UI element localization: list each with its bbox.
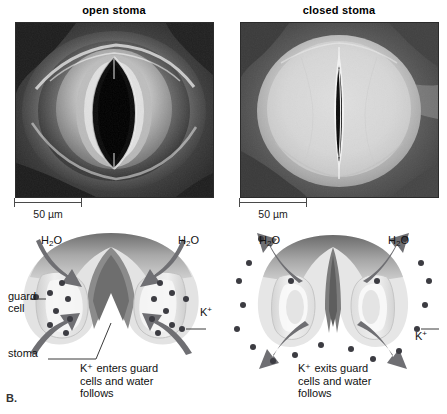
panel-title-closed-stoma: closed stoma <box>240 4 438 16</box>
label-potassium-closed: K+ <box>415 330 427 345</box>
label-guard-cell: guard cell <box>8 290 36 314</box>
scale-bar-open: 50 µm <box>14 198 82 220</box>
label-guard-cell-line1: guard <box>8 290 36 302</box>
scale-bar-closed: 50 µm <box>239 198 307 220</box>
scale-bar-tick-right <box>306 198 307 207</box>
panel-title-open-stoma: open stoma <box>15 4 213 16</box>
panel-letter-b: B. <box>6 392 17 404</box>
figure-stomata: open stoma closed stoma <box>0 0 447 414</box>
label-h2o-closed-left: H2O <box>259 234 280 249</box>
caption-closed-stoma: K⁺ exits guard cells and water follows <box>298 362 423 400</box>
scale-bar-label-open: 50 µm <box>14 208 82 220</box>
scale-bar-rule <box>14 202 82 203</box>
superscript-plus: + <box>422 329 427 338</box>
subscript-2: 2 <box>49 239 53 248</box>
scale-bar-tick-right <box>81 198 82 207</box>
label-guard-cell-line2: cell <box>8 302 25 314</box>
scale-bar-line-open <box>14 198 82 207</box>
micrograph-open-stoma <box>15 22 214 198</box>
label-stoma: stoma <box>8 347 38 360</box>
label-h2o-open-right: H2O <box>178 234 199 249</box>
label-h2o-closed-right: H2O <box>388 234 409 249</box>
scale-bar-label-closed: 50 µm <box>239 208 307 220</box>
caption-open-stoma: K⁺ enters guard cells and water follows <box>80 362 205 400</box>
subscript-2: 2 <box>267 239 271 248</box>
subscript-2: 2 <box>186 239 190 248</box>
scale-bar-rule <box>239 202 307 203</box>
subscript-2: 2 <box>396 239 400 248</box>
scale-bar-tick-left <box>239 198 240 207</box>
scale-bar-line-closed <box>239 198 307 207</box>
label-stoma-text: stoma <box>8 347 38 359</box>
label-potassium-open: K+ <box>200 306 212 321</box>
scale-bar-tick-left <box>14 198 15 207</box>
superscript-plus: + <box>207 305 212 314</box>
label-h2o-open-left: H2O <box>41 234 62 249</box>
micrograph-closed-stoma <box>240 22 439 198</box>
